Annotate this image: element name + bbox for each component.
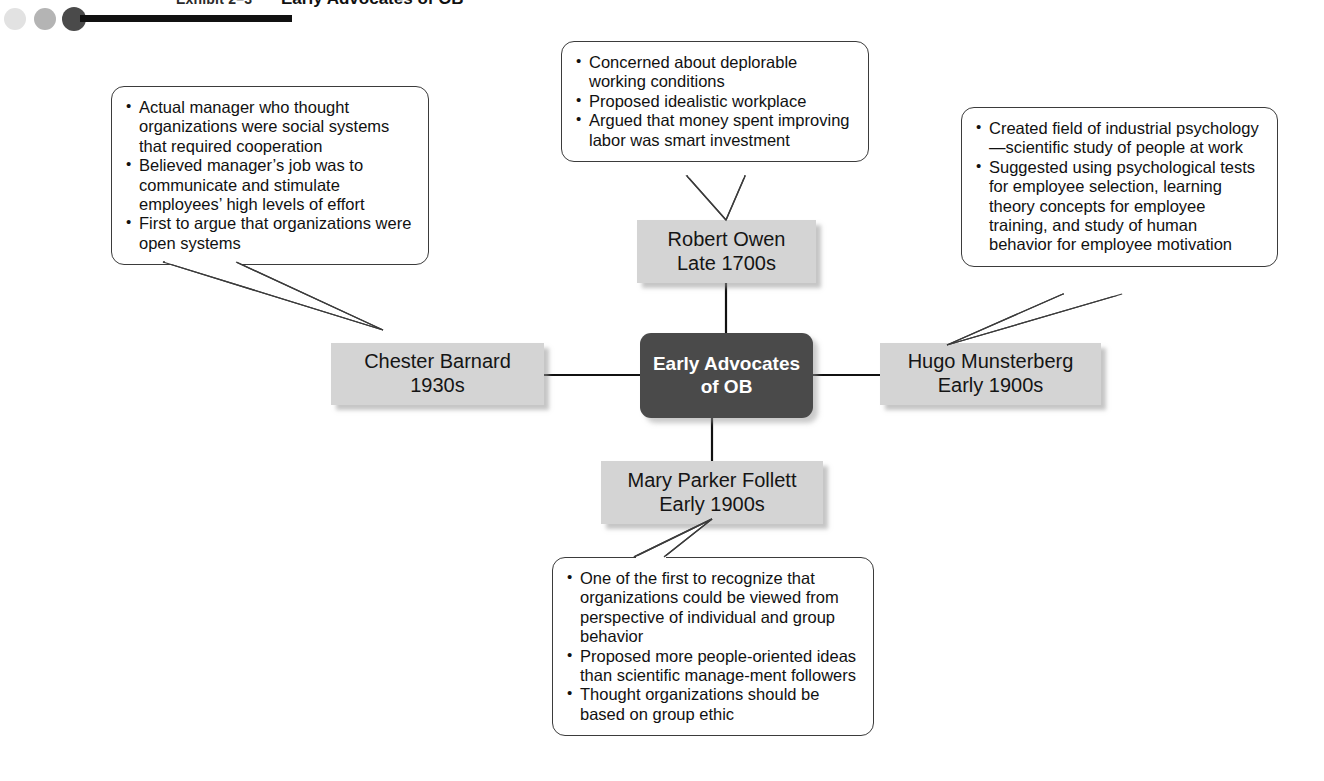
callout-item: Thought organizations should be based on…: [565, 685, 859, 724]
node-label: Chester Barnard 1930s: [364, 350, 511, 397]
node-chester-barnard: Chester Barnard 1930s: [331, 343, 544, 405]
node-label: Robert Owen Late 1700s: [668, 228, 786, 275]
callout-hugo-munsterberg: Created field of industrial psychology—s…: [961, 107, 1278, 267]
callout-item: Concerned about deplorable working condi…: [574, 53, 854, 92]
callout-item: Proposed more people-oriented ideas than…: [565, 647, 859, 686]
node-label: Mary Parker Follett Early 1900s: [628, 469, 797, 516]
callout-item: Argued that money spent improving labor …: [574, 111, 854, 150]
callout-item: One of the first to recognize that organ…: [565, 569, 859, 647]
node-label: Hugo Munsterberg Early 1900s: [908, 350, 1074, 397]
callout-list-hugo-munsterberg: Created field of industrial psychology—s…: [974, 119, 1263, 255]
callout-chester-barnard: Actual manager who thought organizations…: [111, 86, 429, 265]
callout-item: Believed manager’s job was to communicat…: [124, 156, 414, 214]
callout-item: Suggested using psychological tests for …: [974, 158, 1263, 255]
callout-item: Created field of industrial psychology—s…: [974, 119, 1263, 158]
callout-item: First to argue that organizations were o…: [124, 214, 414, 253]
node-mary-parker-follett: Mary Parker Follett Early 1900s: [601, 461, 823, 524]
callout-item: Actual manager who thought organizations…: [124, 98, 414, 156]
callout-list-robert-owen: Concerned about deplorable working condi…: [574, 53, 854, 150]
node-robert-owen: Robert Owen Late 1700s: [637, 220, 816, 283]
node-label: Early Advocates of OB: [653, 353, 800, 398]
node-center-early-advocates: Early Advocates of OB: [640, 333, 813, 418]
exhibit-diagram: Exhibit 2–3 Early Advocates of OB Concer…: [0, 0, 1324, 781]
callout-item: Proposed idealistic workplace: [574, 92, 854, 111]
node-hugo-munsterberg: Hugo Munsterberg Early 1900s: [880, 343, 1101, 405]
callout-list-chester-barnard: Actual manager who thought organizations…: [124, 98, 414, 253]
callout-robert-owen: Concerned about deplorable working condi…: [561, 41, 869, 162]
callout-mary-parker-follett: One of the first to recognize that organ…: [552, 557, 874, 736]
callout-list-mary-parker-follett: One of the first to recognize that organ…: [565, 569, 859, 724]
